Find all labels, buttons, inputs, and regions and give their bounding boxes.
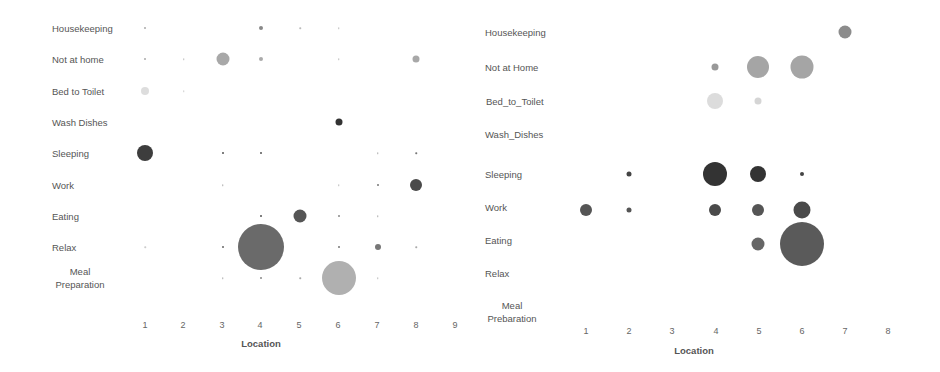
- data-bubble: [410, 179, 422, 191]
- data-bubble: [416, 246, 418, 248]
- y-label-wash-dishes: Wash_Dishes: [485, 128, 543, 141]
- y-label-meal-preparation: Meal Prebaration: [483, 299, 541, 325]
- data-bubble: [747, 56, 769, 78]
- data-bubble: [183, 90, 185, 92]
- data-bubble: [755, 98, 762, 105]
- y-label-housekeeping: Housekeeping: [52, 22, 113, 35]
- y-label-bed-to-toilet: Bed to Toilet: [52, 85, 104, 98]
- x-tick-8: 8: [413, 320, 418, 330]
- y-label-eating: Eating: [485, 234, 512, 247]
- data-bubble: [338, 246, 340, 248]
- x-axis-title: Location: [674, 345, 714, 356]
- y-label-not-at-home: Not at home: [52, 53, 104, 66]
- data-bubble: [216, 53, 229, 66]
- x-tick-4: 4: [257, 320, 262, 330]
- data-bubble: [222, 277, 224, 279]
- data-bubble: [238, 224, 284, 270]
- data-bubble: [260, 277, 262, 279]
- x-tick-7: 7: [842, 326, 847, 336]
- data-bubble: [259, 57, 263, 61]
- data-bubble: [752, 238, 765, 251]
- data-bubble: [144, 246, 146, 248]
- data-bubble: [377, 184, 379, 186]
- data-bubble: [712, 64, 719, 71]
- data-bubble: [800, 172, 804, 176]
- bubble-chart-left: Housekeeping Not at home Bed to Toilet W…: [0, 0, 470, 372]
- y-label-wash-dishes: Wash Dishes: [52, 116, 108, 129]
- y-label-sleeping: Sleeping: [52, 147, 89, 160]
- y-label-not-at-home: Not at Home: [485, 61, 538, 74]
- data-bubble: [338, 215, 340, 217]
- data-bubble: [294, 210, 307, 223]
- data-bubble: [793, 202, 810, 219]
- data-bubble: [137, 145, 153, 161]
- data-bubble: [377, 215, 379, 217]
- data-bubble: [338, 58, 340, 60]
- x-axis-title: Location: [241, 338, 281, 349]
- y-label-work: Work: [52, 179, 74, 192]
- data-bubble: [335, 119, 342, 126]
- data-bubble: [780, 222, 824, 266]
- data-bubble: [707, 93, 723, 109]
- x-tick-7: 7: [374, 320, 379, 330]
- x-tick-2: 2: [180, 320, 185, 330]
- data-bubble: [322, 261, 356, 295]
- data-bubble: [790, 56, 813, 79]
- data-bubble: [144, 27, 146, 29]
- data-bubble: [413, 56, 420, 63]
- data-bubble: [750, 166, 766, 182]
- data-bubble: [709, 204, 721, 216]
- x-tick-5: 5: [296, 320, 301, 330]
- data-bubble: [338, 27, 340, 29]
- y-label-bed-to-toilet: Bed_to_Toilet: [486, 95, 544, 108]
- x-tick-3: 3: [219, 320, 224, 330]
- x-tick-3: 3: [669, 326, 674, 336]
- data-bubble: [338, 184, 340, 186]
- x-tick-6: 6: [335, 320, 340, 330]
- data-bubble: [838, 26, 851, 39]
- data-bubble: [416, 152, 418, 154]
- y-label-eating: Eating: [52, 210, 79, 223]
- y-label-work: Work: [485, 201, 507, 214]
- y-label-relax: Relax: [485, 267, 509, 280]
- data-bubble: [183, 58, 185, 60]
- data-bubble: [377, 152, 379, 154]
- x-tick-8: 8: [885, 326, 890, 336]
- data-bubble: [141, 87, 149, 95]
- data-bubble: [222, 246, 224, 248]
- x-tick-9: 9: [452, 320, 457, 330]
- data-bubble: [703, 162, 727, 186]
- data-bubble: [144, 58, 146, 60]
- data-bubble: [375, 244, 381, 250]
- data-bubble: [627, 172, 632, 177]
- x-tick-6: 6: [799, 326, 804, 336]
- y-label-meal-preparation: Meal Preparation: [52, 265, 108, 291]
- data-bubble: [377, 277, 379, 279]
- data-bubble: [627, 208, 632, 213]
- data-bubble: [580, 204, 592, 216]
- data-bubble: [222, 184, 224, 186]
- bubble-chart-right: Housekeeping Not at Home Bed_to_Toilet W…: [470, 0, 940, 372]
- data-bubble: [299, 277, 301, 279]
- x-tick-1: 1: [142, 320, 147, 330]
- y-label-sleeping: Sleeping: [485, 168, 522, 181]
- x-tick-2: 2: [626, 326, 631, 336]
- y-label-housekeeping: Housekeeping: [485, 26, 546, 39]
- data-bubble: [299, 27, 301, 29]
- data-bubble: [260, 152, 262, 154]
- x-tick-4: 4: [713, 326, 718, 336]
- data-bubble: [752, 204, 764, 216]
- data-bubble: [222, 152, 224, 154]
- y-label-relax: Relax: [52, 241, 76, 254]
- data-bubble: [259, 26, 263, 30]
- x-tick-5: 5: [756, 326, 761, 336]
- x-tick-1: 1: [583, 326, 588, 336]
- data-bubble: [260, 215, 262, 217]
